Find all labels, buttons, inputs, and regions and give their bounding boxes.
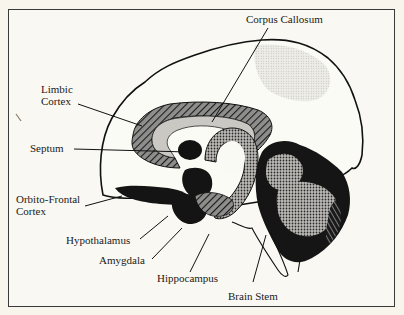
callout-hippocampus [190,234,209,272]
callout-amygdala [152,228,182,259]
thalamus [219,141,245,175]
label-brain-stem: Brain Stem [228,290,278,302]
callout-hypothalamus [140,216,168,239]
label-amygdala: Amygdala [99,254,145,266]
label-hippocampus: Hippocampus [157,272,218,284]
callout-orbito-frontal [85,196,122,206]
label-corpus-callosum: Corpus Callosum [246,13,323,25]
label-orbito-frontal-cortex: Orbito-Frontal Cortex [16,193,80,217]
label-hypothalamus: Hypothalamus [66,234,130,246]
septum [178,140,202,160]
stray-mark [16,114,21,121]
label-limbic-cortex: Limbic Cortex [41,83,73,107]
brain-diagram [0,0,404,315]
label-septum: Septum [30,142,64,154]
